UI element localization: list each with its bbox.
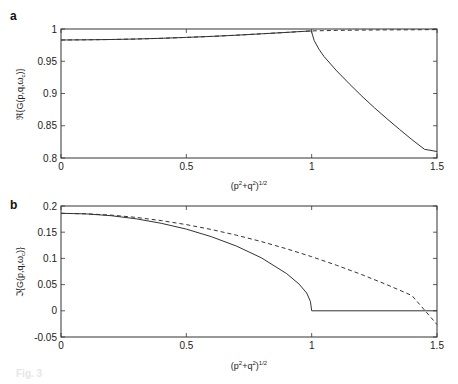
y-tick-label: 0.95 [38, 56, 58, 67]
solid-curve [61, 31, 437, 152]
y-tick-label: 0.2 [43, 201, 57, 212]
panel-b-x-axis-label: (p2+q2)1/2 [231, 360, 268, 371]
panel-a: a 0.80.850.90.951 00.511.5 (p2+q2)1/2 ℜ{… [10, 9, 444, 191]
y-tick-label: 0 [51, 305, 57, 316]
panel-a-series [61, 30, 437, 152]
panel-a-frame [61, 29, 437, 158]
panel-b-y-axis-label: ℑ{G(p,q,ωc)} [15, 247, 26, 297]
panel-a-label: a [10, 9, 17, 23]
x-tick-label: 1.5 [430, 340, 444, 351]
panel-b-y-ticks: -0.0500.050.10.150.2 [34, 201, 437, 343]
y-tick-label: 0.1 [43, 253, 57, 264]
panel-a-x-axis-label: (p2+q2)1/2 [231, 180, 268, 191]
y-tick-label: 0.8 [43, 153, 57, 164]
y-tick-label: 0.85 [38, 120, 58, 131]
panel-b-frame [61, 206, 437, 337]
y-tick-label: 0.15 [38, 227, 58, 238]
panel-b: b -0.0500.050.10.150.2 00.511.5 (p2+q2)1… [10, 198, 444, 371]
x-tick-label: 1 [309, 340, 315, 351]
x-tick-label: 0.5 [179, 340, 193, 351]
panel-a-y-ticks: 0.80.850.90.951 [38, 24, 437, 164]
y-tick-label: -0.05 [34, 332, 57, 343]
y-tick-label: 1 [51, 24, 57, 35]
panel-a-x-ticks: 00.511.5 [58, 29, 444, 172]
figure: a 0.80.850.90.951 00.511.5 (p2+q2)1/2 ℜ{… [0, 0, 458, 384]
y-tick-label: 0.9 [43, 88, 57, 99]
y-tick-label: 0.05 [38, 279, 58, 290]
solid-curve [61, 213, 437, 310]
x-tick-label: 1.5 [430, 161, 444, 172]
x-tick-label: 0.5 [179, 161, 193, 172]
panel-b-series [61, 213, 437, 324]
panel-b-x-ticks: 00.511.5 [58, 206, 444, 351]
x-tick-label: 0 [58, 161, 64, 172]
dashed-curve [61, 213, 437, 324]
x-tick-label: 1 [309, 161, 315, 172]
figure-caption: Fig. 3 [16, 368, 42, 379]
panel-b-label: b [10, 198, 17, 212]
x-tick-label: 0 [58, 340, 64, 351]
panel-a-y-axis-label: ℜ{G(p,q,ωc)} [15, 68, 26, 119]
